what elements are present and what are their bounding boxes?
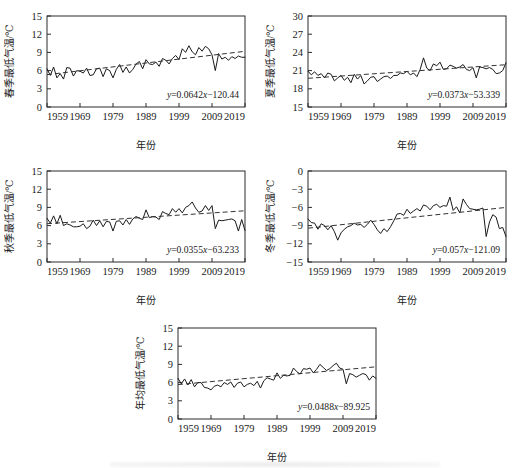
panel-spring: 036912151959196919791989199920092019y=0.… [0, 2, 261, 155]
x-tick-label: 2009 [463, 111, 484, 122]
x-tick-label: 1999 [169, 266, 190, 277]
y-tick-label: −6 [292, 202, 303, 213]
x-tick-label: 1969 [201, 423, 222, 434]
y-tick-label: 0 [37, 102, 42, 113]
chart-autumn: 036912151959196919791989199920092019y=0.… [0, 157, 261, 310]
trend-line [47, 211, 245, 224]
y-tick-label: −15 [287, 257, 303, 268]
x-tick-label: 2019 [485, 111, 506, 122]
y-tick-label: 3 [37, 238, 42, 249]
x-tick-label: 1999 [430, 266, 451, 277]
data-series-line [308, 58, 506, 84]
y-tick-label: 21 [293, 65, 304, 76]
page-edge-artifact [110, 462, 440, 467]
x-tick-label: 1969 [331, 266, 352, 277]
y-tick-label: 15 [163, 323, 174, 334]
x-tick-label: 1989 [136, 266, 157, 277]
y-tick-label: 15 [32, 11, 43, 22]
x-tick-label: 2009 [333, 423, 354, 434]
x-tick-label: 1979 [364, 266, 385, 277]
y-axis-title: 春季最低气温/℃ [3, 25, 15, 99]
x-tick-label: 1999 [169, 111, 190, 122]
y-tick-label: 15 [32, 166, 43, 177]
y-tick-label: 12 [32, 184, 43, 195]
panel-winter: −15−12−9−6−30195919691979198919992009201… [261, 157, 522, 310]
y-tick-label: −3 [292, 184, 303, 195]
x-tick-label: 1989 [136, 111, 157, 122]
y-tick-label: 24 [293, 47, 304, 58]
y-tick-label: 9 [168, 359, 173, 370]
x-tick-label: 1959 [308, 266, 329, 277]
chart-winter: −15−12−9−6−30195919691979198919992009201… [261, 157, 522, 310]
x-tick-label: 1979 [364, 111, 385, 122]
y-tick-label: 9 [37, 202, 42, 213]
chart-annual: 036912151959196919791989199920092019y=0.… [131, 314, 392, 467]
x-tick-label: 1959 [47, 111, 68, 122]
data-series-line [47, 202, 245, 231]
x-tick-label: 1999 [300, 423, 321, 434]
x-tick-label: 2019 [224, 266, 245, 277]
y-tick-label: 30 [293, 11, 304, 22]
x-tick-label: 1989 [397, 266, 418, 277]
y-tick-label: 12 [32, 29, 43, 40]
y-tick-label: 6 [168, 377, 173, 388]
y-axis-title: 夏季最低气温/℃ [264, 25, 276, 99]
panel-summer: 1518212427301959196919791989199920092019… [261, 2, 522, 155]
x-tick-label: 1969 [70, 266, 91, 277]
y-tick-label: 6 [37, 220, 42, 231]
x-tick-label: 1969 [331, 111, 352, 122]
y-tick-label: 9 [37, 47, 42, 58]
y-tick-label: −9 [292, 220, 303, 231]
x-tick-label: 1969 [70, 111, 91, 122]
x-axis-title: 年份 [397, 294, 417, 306]
x-tick-label: 2009 [463, 266, 484, 277]
regression-equation: y=0.0355x−63.233 [166, 244, 239, 255]
y-tick-label: 27 [293, 29, 304, 40]
chart-summer: 1518212427301959196919791989199920092019… [261, 2, 522, 155]
y-axis-title: 冬季最低气温/℃ [264, 180, 276, 254]
y-tick-label: 12 [163, 341, 174, 352]
x-tick-label: 1979 [103, 111, 124, 122]
trend-line [308, 207, 506, 228]
x-tick-label: 1959 [47, 266, 68, 277]
x-axis-title: 年份 [397, 139, 417, 151]
y-tick-label: 3 [168, 395, 173, 406]
y-axis-title: 秋季最低气温/℃ [3, 180, 15, 254]
y-tick-label: −12 [287, 238, 303, 249]
y-tick-label: 3 [37, 83, 42, 94]
regression-equation: y=0.0373x−53.339 [427, 89, 500, 100]
regression-equation: y=0.0642x−120.44 [166, 89, 239, 100]
x-tick-label: 2009 [202, 266, 223, 277]
data-series-line [308, 197, 506, 240]
y-tick-label: 15 [293, 102, 304, 113]
x-tick-label: 1959 [178, 423, 199, 434]
x-tick-label: 1979 [234, 423, 255, 434]
x-tick-label: 1959 [308, 111, 329, 122]
regression-equation: y=0.057x−121.09 [432, 244, 501, 255]
y-tick-label: 0 [168, 414, 173, 425]
x-tick-label: 1989 [267, 423, 288, 434]
chart-spring: 036912151959196919791989199920092019y=0.… [0, 2, 261, 155]
y-tick-label: 6 [37, 65, 42, 76]
panel-annual: 036912151959196919791989199920092019y=0.… [131, 314, 392, 467]
y-tick-label: 0 [37, 257, 42, 268]
x-tick-label: 1989 [397, 111, 418, 122]
temperature-trend-figure: 036912151959196919791989199920092019y=0.… [0, 0, 522, 468]
panel-autumn: 036912151959196919791989199920092019y=0.… [0, 157, 261, 310]
y-tick-label: 0 [298, 166, 303, 177]
x-tick-label: 2019 [224, 111, 245, 122]
x-tick-label: 1999 [430, 111, 451, 122]
data-series-line [47, 46, 245, 79]
x-axis-title: 年份 [136, 139, 156, 151]
x-tick-label: 2019 [355, 423, 376, 434]
y-axis-title: 年均最低气温/℃ [134, 337, 146, 411]
x-axis-title: 年份 [136, 294, 156, 306]
data-series-line [178, 363, 376, 390]
x-tick-label: 2019 [485, 266, 506, 277]
x-tick-label: 1979 [103, 266, 124, 277]
x-tick-label: 2009 [202, 111, 223, 122]
regression-equation: y=0.0488x−89.925 [297, 401, 370, 412]
y-tick-label: 18 [293, 83, 304, 94]
